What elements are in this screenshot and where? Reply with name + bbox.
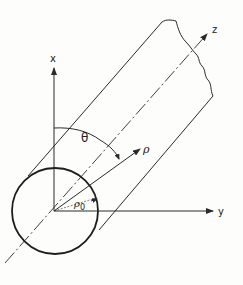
x-axis-label: x <box>50 53 56 64</box>
diagram-canvas: x y z ρ θ ρ0 <box>0 0 243 285</box>
z-axis-label: z <box>212 24 217 35</box>
z-axis <box>5 34 207 263</box>
y-axis-label: y <box>218 206 224 217</box>
cylinder-top-edge <box>28 22 162 176</box>
rho0-subscript: 0 <box>80 203 85 212</box>
cylinder-broken-end <box>162 20 213 96</box>
cylinder-diagram: x y z ρ θ ρ0 <box>0 0 243 285</box>
rho0-label: ρ0 <box>73 198 85 212</box>
rho-label: ρ <box>142 143 150 156</box>
cylinder-bottom-edge <box>99 96 213 230</box>
theta-label: θ <box>81 131 88 145</box>
